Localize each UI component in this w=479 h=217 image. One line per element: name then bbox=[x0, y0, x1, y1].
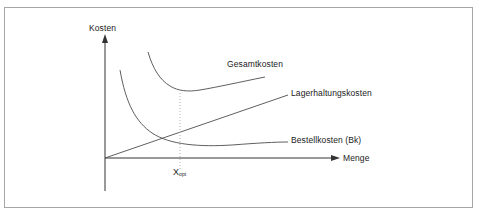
optimum-quantity-label: Xopt bbox=[173, 168, 186, 177]
diagram-screenshot: Kosten Gesamtkosten Lagerhaltungskosten … bbox=[0, 0, 479, 217]
order-costs-label: Bestellkosten (Bk) bbox=[291, 136, 361, 145]
cost-quantity-figure bbox=[0, 0, 479, 217]
total-costs-curve bbox=[148, 52, 265, 91]
y-axis-arrowhead bbox=[102, 34, 108, 43]
total-costs-label: Gesamtkosten bbox=[227, 60, 283, 69]
x-axis-arrowhead bbox=[331, 155, 340, 161]
y-axis-label: Kosten bbox=[89, 24, 116, 33]
x-axis-label: Menge bbox=[343, 154, 370, 163]
holding-costs-line bbox=[105, 95, 288, 158]
optimum-subscript-text: opt bbox=[179, 171, 186, 177]
order-costs-curve bbox=[120, 70, 288, 146]
holding-costs-label: Lagerhaltungskosten bbox=[291, 89, 372, 98]
